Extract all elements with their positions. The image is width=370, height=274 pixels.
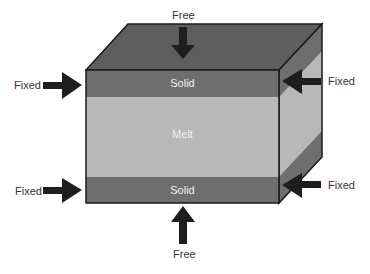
layer-label-solid-top: Solid xyxy=(86,77,279,89)
layer-label-solid-bottom: Solid xyxy=(86,184,279,196)
label-left-lower-fixed: Fixed xyxy=(15,185,42,197)
label-right-lower-fixed: Fixed xyxy=(328,179,355,191)
arrow-right-icon xyxy=(43,72,82,99)
arrow-up-icon xyxy=(171,206,195,244)
label-left-upper-fixed: Fixed xyxy=(14,79,41,91)
label-bottom-free: Free xyxy=(173,248,196,260)
label-right-upper-fixed: Fixed xyxy=(328,75,355,87)
layer-label-melt: Melt xyxy=(86,128,279,140)
arrow-right-icon xyxy=(43,178,82,203)
label-top-free: Free xyxy=(172,9,195,21)
